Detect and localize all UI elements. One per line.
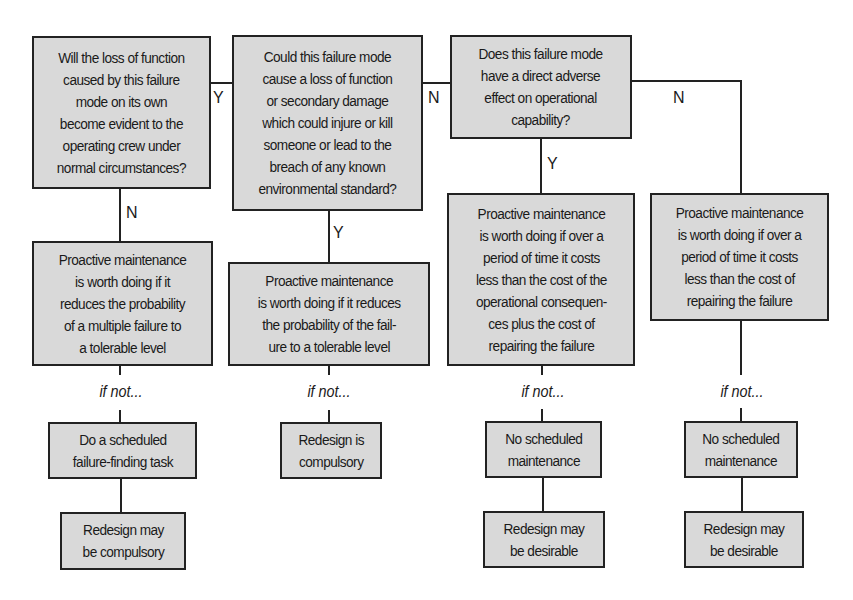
criterion-text: Proactive maintenance is worth doing if …	[676, 202, 804, 312]
question-box-evident: Will the loss of function caused by this…	[32, 36, 211, 189]
criterion-box-operational: Proactive maintenance is worth doing if …	[447, 193, 635, 366]
connector-col3-top	[541, 365, 543, 375]
question-box-safety-environment: Could this failure mode cause a loss of …	[232, 35, 423, 211]
criterion-text: Proactive maintenance is worth doing if …	[258, 270, 401, 358]
branch-label-q1-yes: Y	[213, 89, 224, 107]
action-text: No scheduled maintenance	[702, 428, 779, 472]
action-box-redesign-compulsory: Redesign is compulsory	[280, 422, 382, 479]
criterion-text: Proactive maintenance is worth doing if …	[59, 249, 187, 359]
branch-label-q1-no: N	[126, 204, 138, 222]
criterion-box-non-operational: Proactive maintenance is worth doing if …	[650, 193, 829, 321]
branch-label-q2-no: N	[428, 89, 440, 107]
if-not-label-col4: if not...	[720, 383, 763, 401]
action-box-no-scheduled-maintenance: No scheduled maintenance	[485, 421, 602, 478]
final-text: Redesign may be desirable	[504, 518, 585, 562]
question-text: Could this failure mode cause a loss of …	[259, 46, 397, 200]
criterion-text: Proactive maintenance is worth doing if …	[476, 203, 607, 357]
final-text: Redesign may be desirable	[704, 518, 785, 562]
connector-q3-no-down	[740, 80, 742, 194]
question-text: Does this failure mode have a direct adv…	[479, 43, 603, 131]
connector-q3-yes	[540, 138, 542, 194]
if-not-label-col3: if not...	[521, 383, 564, 401]
connector-q1-no	[119, 188, 121, 242]
final-box-redesign-desirable-2: Redesign may be desirable	[684, 511, 804, 568]
action-box-no-scheduled-maintenance-2: No scheduled maintenance	[684, 421, 798, 478]
connector-col1-bottom	[120, 478, 122, 513]
connector-q2-q3	[422, 82, 451, 84]
question-box-operational: Does this failure mode have a direct adv…	[450, 35, 632, 139]
action-text: No scheduled maintenance	[505, 428, 582, 472]
branch-label-q3-yes: Y	[547, 155, 558, 173]
branch-label-q2-yes: Y	[333, 224, 344, 242]
question-text: Will the loss of function caused by this…	[57, 47, 186, 179]
criterion-box-hidden-failure: Proactive maintenance is worth doing if …	[32, 241, 213, 366]
if-not-label-col1: if not...	[99, 383, 142, 401]
action-box-failure-finding: Do a scheduled failure-finding task	[48, 422, 197, 479]
connector-col3-bottom	[542, 477, 544, 512]
if-not-label-col2: if not...	[307, 383, 350, 401]
action-text: Redesign is compulsory	[298, 429, 363, 473]
final-box-redesign-compulsory-maybe: Redesign may be compulsory	[60, 512, 186, 570]
action-text: Do a scheduled failure-finding task	[72, 429, 172, 473]
connector-q2-yes	[328, 210, 330, 263]
connector-q3-no	[631, 80, 742, 82]
connector-col4-mid	[740, 408, 742, 422]
branch-label-q3-no: N	[673, 89, 685, 107]
connector-col4-bottom	[741, 477, 743, 512]
final-box-redesign-desirable: Redesign may be desirable	[483, 511, 605, 568]
connector-col1-top	[119, 365, 121, 375]
criterion-box-safety: Proactive maintenance is worth doing if …	[228, 262, 430, 366]
final-text: Redesign may be compulsory	[82, 519, 164, 563]
cropped-section-title	[30, 0, 260, 4]
connector-q1-q2	[210, 82, 233, 84]
connector-col4-top	[740, 320, 742, 375]
connector-col2-top	[328, 365, 330, 375]
